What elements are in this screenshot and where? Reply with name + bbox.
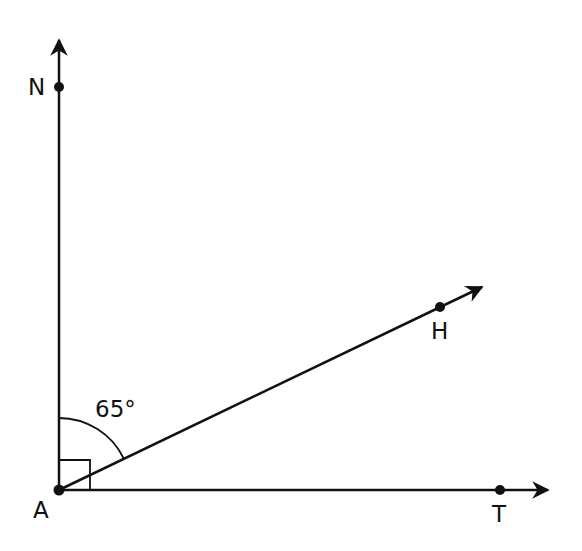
label-T: T (492, 503, 506, 526)
ray-AH (59, 287, 482, 490)
point-H (435, 302, 445, 312)
angle-arc-65 (59, 418, 124, 459)
point-T (495, 485, 505, 495)
label-A: A (33, 499, 49, 522)
point-A (54, 485, 65, 496)
diagram-canvas: N A H T 65° (0, 0, 582, 551)
right-angle-marker (59, 460, 90, 490)
label-H: H (431, 320, 448, 343)
point-N (54, 82, 64, 92)
label-N: N (28, 76, 45, 99)
angle-label: 65° (95, 398, 136, 421)
diagram-svg (0, 0, 582, 551)
